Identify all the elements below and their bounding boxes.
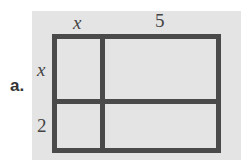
top-label-5: 5 [155, 10, 165, 32]
top-label-x: x [73, 12, 81, 34]
vertical-divider [100, 34, 105, 153]
side-label-x: x [37, 59, 45, 81]
problem-label: a. [10, 76, 24, 96]
horizontal-divider [52, 99, 221, 104]
area-model-rectangle [52, 34, 221, 153]
side-label-2: 2 [37, 115, 47, 137]
